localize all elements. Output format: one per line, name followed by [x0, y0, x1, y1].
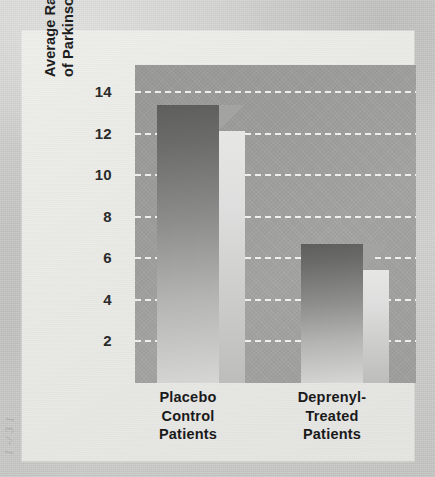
y-tick-label-6: 6	[103, 250, 112, 265]
bar-deprenyl-top-bevel	[363, 244, 389, 270]
bar-placebo-side-face	[219, 131, 245, 384]
y-tick-label-2: 2	[103, 333, 112, 348]
x-category-deprenyl-line-3: Patients	[272, 425, 392, 444]
x-category-label-placebo: Placebo Control Patients	[128, 388, 248, 444]
y-axis-title-line-1: Average Rate of Development	[42, 0, 60, 77]
x-category-deprenyl-line-2: Treated	[272, 407, 392, 426]
x-category-placebo-line-2: Control	[128, 407, 248, 426]
bar-placebo-front-face	[157, 105, 219, 384]
y-tick-label-12: 12	[95, 126, 112, 141]
bar-deprenyl-treated[interactable]	[301, 244, 389, 383]
y-axis-title-line-2: of Parkinson's Motor Symptoms	[60, 0, 78, 77]
bar-chart: Average Rate of Development of Parkinson…	[22, 31, 414, 461]
x-category-placebo-line-3: Patients	[128, 425, 248, 444]
bar-placebo-top-bevel	[219, 105, 245, 131]
bar-placebo-control[interactable]	[157, 105, 245, 384]
x-category-label-deprenyl: Deprenyl- Treated Patients	[272, 388, 392, 444]
x-category-deprenyl-line-1: Deprenyl-	[272, 388, 392, 407]
plot-area	[135, 65, 416, 383]
bar-deprenyl-front-face	[301, 244, 363, 383]
y-axis-title: Average Rate of Development of Parkinson…	[42, 0, 77, 77]
y-tick-label-14: 14	[95, 84, 112, 99]
margin-handwriting: 1 -/ 3 1	[2, 416, 15, 456]
x-category-placebo-line-1: Placebo	[128, 388, 248, 407]
chart-card: Average Rate of Development of Parkinson…	[22, 31, 414, 461]
y-tick-label-10: 10	[95, 167, 112, 182]
y-tick-label-8: 8	[103, 209, 112, 224]
y-tick-label-4: 4	[103, 292, 112, 307]
gridline-14	[135, 91, 416, 93]
bar-deprenyl-side-face	[363, 270, 389, 383]
